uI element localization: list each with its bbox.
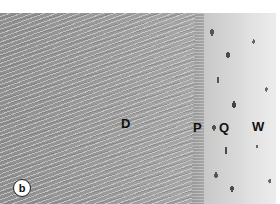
- label-q: Q: [219, 121, 229, 134]
- label-d: D: [121, 117, 130, 130]
- histology-micrograph: [0, 13, 276, 204]
- label-p: P: [193, 121, 202, 134]
- panel-label-badge: b: [13, 179, 31, 197]
- pulp-region: [244, 13, 276, 204]
- odontoblast-layer: [204, 13, 244, 204]
- dentin-region: [0, 13, 200, 204]
- label-w: W: [252, 120, 264, 133]
